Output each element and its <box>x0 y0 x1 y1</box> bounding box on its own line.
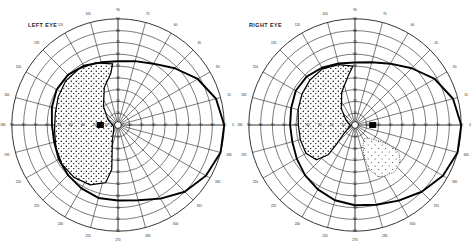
ecc-tick-horizontal-right-60: 60 <box>424 123 428 127</box>
left-eye-perimetry-plot: 0153045607590105120135150165180195210225… <box>0 0 236 246</box>
ecc-tick-horizontal-right-30: 30 <box>388 123 392 127</box>
defect-region-secondary <box>363 138 400 177</box>
ecc-tick-horizontal-left-30: 30 <box>318 123 322 127</box>
ecc-tick-bottom-40: 40 <box>353 170 357 174</box>
ecc-tick-bottom-40: 40 <box>116 170 120 174</box>
ecc-tick-bottom-60: 60 <box>353 194 357 198</box>
meridian-label-75: 75 <box>383 12 387 16</box>
meridian-label-180: 180 <box>237 123 243 127</box>
ecc-tick-horizontal-right-90: 90 <box>222 123 226 127</box>
ecc-tick-horizontal-right-90: 90 <box>459 123 463 127</box>
meridian-label-285: 285 <box>145 234 151 238</box>
meridian-label-75: 75 <box>146 12 150 16</box>
meridian-spoke-45 <box>355 50 430 125</box>
ecc-tick-bottom-30: 30 <box>353 158 357 162</box>
ecc-tick-bottom-70: 70 <box>116 206 120 210</box>
ecc-tick-vertical-90: 90 <box>116 17 120 21</box>
meridian-label-195: 195 <box>241 153 247 157</box>
meridian-label-285: 285 <box>382 234 388 238</box>
ecc-tick-vertical-10: 10 <box>116 111 120 115</box>
ecc-tick-bottom-90: 90 <box>353 229 357 233</box>
ecc-tick-horizontal-right-50: 50 <box>412 123 416 127</box>
ecc-tick-horizontal-right-80: 80 <box>210 123 214 127</box>
ecc-tick-horizontal-left-40: 40 <box>69 123 73 127</box>
meridian-label-255: 255 <box>323 234 329 238</box>
ecc-tick-vertical-60: 60 <box>116 52 120 56</box>
defect-region-primary <box>298 65 353 160</box>
ecc-tick-vertical-50: 50 <box>353 64 357 68</box>
ecc-tick-vertical-80: 80 <box>116 29 120 33</box>
meridian-label-165: 165 <box>4 93 10 97</box>
meridian-label-15: 15 <box>464 93 468 97</box>
meridian-spoke-75 <box>118 22 145 125</box>
ecc-tick-bottom-20: 20 <box>116 147 120 151</box>
meridian-label-105: 105 <box>323 12 329 16</box>
meridian-label-165: 165 <box>241 93 247 97</box>
ecc-tick-horizontal-left-50: 50 <box>294 123 298 127</box>
meridian-label-120: 120 <box>58 23 64 27</box>
ecc-tick-horizontal-right-70: 70 <box>436 123 440 127</box>
ecc-tick-horizontal-left-90: 90 <box>247 123 251 127</box>
ecc-tick-horizontal-left-60: 60 <box>282 123 286 127</box>
ecc-tick-vertical-40: 40 <box>116 76 120 80</box>
ecc-tick-vertical-30: 30 <box>353 88 357 92</box>
ecc-tick-bottom-10: 10 <box>116 135 120 139</box>
ecc-tick-vertical-70: 70 <box>116 40 120 44</box>
ecc-tick-horizontal-left-80: 80 <box>22 123 26 127</box>
meridian-label-15: 15 <box>227 93 231 97</box>
meridian-label-300: 300 <box>410 222 416 226</box>
ecc-tick-horizontal-left-30: 30 <box>81 123 85 127</box>
meridian-spoke-15 <box>118 98 221 125</box>
meridian-label-330: 330 <box>215 180 221 184</box>
meridian-label-90: 90 <box>116 8 120 12</box>
ecc-tick-horizontal-left-20: 20 <box>329 123 333 127</box>
ecc-tick-horizontal-left-70: 70 <box>270 123 274 127</box>
meridian-label-210: 210 <box>253 180 259 184</box>
ecc-tick-vertical-10: 10 <box>353 111 357 115</box>
meridian-label-30: 30 <box>216 65 220 69</box>
chart-panel-left-eye: LEFT EYE 0153045607590105120135150165180… <box>0 0 236 246</box>
meridian-spoke-15 <box>355 98 458 125</box>
meridian-label-150: 150 <box>253 65 259 69</box>
ecc-tick-bottom-60: 60 <box>116 194 120 198</box>
ecc-tick-bottom-30: 30 <box>116 158 120 162</box>
ecc-tick-vertical-70: 70 <box>353 40 357 44</box>
ecc-tick-bottom-80: 80 <box>353 217 357 221</box>
meridian-label-345: 345 <box>463 153 469 157</box>
ecc-tick-horizontal-left-70: 70 <box>33 123 37 127</box>
ecc-tick-horizontal-right-40: 40 <box>163 123 167 127</box>
ecc-tick-horizontal-left-50: 50 <box>57 123 61 127</box>
meridian-label-45: 45 <box>198 41 202 45</box>
meridian-label-60: 60 <box>174 23 178 27</box>
meridian-spoke-285 <box>118 125 145 228</box>
ecc-tick-horizontal-left-40: 40 <box>306 123 310 127</box>
meridian-label-210: 210 <box>16 180 22 184</box>
ecc-tick-horizontal-left-20: 20 <box>92 123 96 127</box>
ecc-tick-horizontal-left-60: 60 <box>45 123 49 127</box>
meridian-label-0: 0 <box>469 123 471 127</box>
ecc-tick-horizontal-left-80: 80 <box>259 123 263 127</box>
ecc-tick-horizontal-right-40: 40 <box>400 123 404 127</box>
meridian-label-30: 30 <box>453 65 457 69</box>
meridian-label-60: 60 <box>411 23 415 27</box>
ecc-tick-bottom-20: 20 <box>353 147 357 151</box>
ecc-tick-vertical-20: 20 <box>353 99 357 103</box>
meridian-label-135: 135 <box>34 41 40 45</box>
ecc-tick-vertical-80: 80 <box>353 29 357 33</box>
ecc-tick-horizontal-left-10: 10 <box>104 123 108 127</box>
ecc-tick-bottom-80: 80 <box>116 217 120 221</box>
meridian-label-270: 270 <box>115 238 121 242</box>
ecc-tick-horizontal-right-30: 30 <box>151 123 155 127</box>
ecc-tick-horizontal-left-90: 90 <box>10 123 14 127</box>
meridian-label-120: 120 <box>295 23 301 27</box>
right-eye-perimetry-plot: 0153045607590105120135150165180195210225… <box>237 0 473 246</box>
ecc-tick-vertical-90: 90 <box>353 17 357 21</box>
chart-panel-right-eye: RIGHT EYE 015304560759010512013515016518… <box>237 0 473 246</box>
ecc-tick-horizontal-right-80: 80 <box>447 123 451 127</box>
meridian-label-240: 240 <box>58 222 64 226</box>
meridian-label-225: 225 <box>271 204 277 208</box>
ecc-tick-bottom-50: 50 <box>116 182 120 186</box>
fixation-point <box>115 122 122 129</box>
meridian-label-0: 0 <box>232 123 234 127</box>
fixation-point <box>352 122 359 129</box>
